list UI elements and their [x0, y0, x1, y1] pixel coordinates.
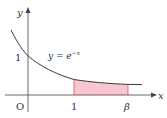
- x-tick-beta-label: β: [123, 101, 130, 112]
- y-axis-label: y: [16, 7, 23, 18]
- x-axis-arrow-icon: [151, 93, 157, 98]
- shaded-area-region: [74, 80, 128, 96]
- y-tick-one-label: 1: [15, 52, 21, 63]
- graph-figure: y x O 1 1 β y = e−x: [0, 0, 167, 118]
- x-tick-one-label: 1: [71, 101, 77, 112]
- curve-exp-decay: [11, 30, 142, 85]
- curve-equation-label: y = e−x: [47, 49, 81, 61]
- y-axis-arrow-icon: [26, 7, 31, 13]
- origin-label: O: [16, 101, 24, 112]
- x-axis-label: x: [158, 90, 164, 101]
